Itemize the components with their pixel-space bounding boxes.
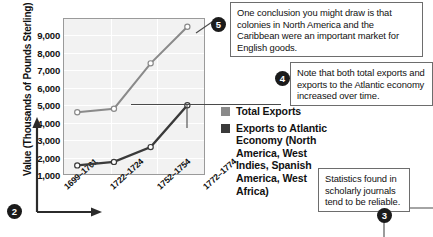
callout-box-4: Note that both total exports and exports… <box>290 62 433 106</box>
callout-bullet-3[interactable]: 3 <box>377 208 392 223</box>
callout-bullet-4[interactable]: 4 <box>275 71 290 86</box>
legend-label-total-exports: Total Exports <box>236 105 301 118</box>
callout-bullet-5[interactable]: 5 <box>211 17 226 32</box>
legend-swatch-icon-total-exports <box>221 107 230 116</box>
callout-box-3: Statistics found in scholarly journals t… <box>318 168 410 212</box>
legend-item-total-exports[interactable]: Total Exports <box>221 105 341 118</box>
figure-root: Value (Thousands of Pounds Sterling) 1,0… <box>0 0 433 237</box>
callout-text-4: Note that both total exports and exports… <box>297 67 427 102</box>
callout-text-5: One conclusion you might draw is that co… <box>237 7 417 53</box>
legend-swatch-icon-atlantic-exports <box>221 124 230 133</box>
callout-text-3: Statistics found in scholarly journals t… <box>325 173 404 208</box>
callout-box-5: One conclusion you might draw is that co… <box>230 2 423 57</box>
